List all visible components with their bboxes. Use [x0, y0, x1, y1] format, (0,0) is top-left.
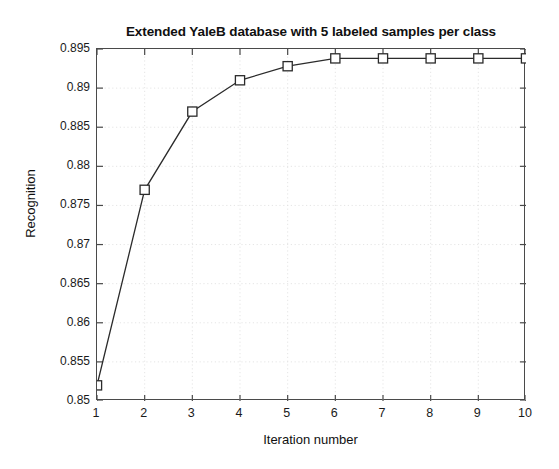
x-axis-label: Iteration number — [96, 432, 525, 447]
x-tick-label: 9 — [457, 406, 497, 420]
y-tick-label: 0.875 — [38, 197, 90, 211]
x-tick-label: 2 — [124, 406, 164, 420]
x-tick-label: 7 — [362, 406, 402, 420]
y-axis-tick-labels: 0.850.8550.860.8650.870.8750.880.8850.89… — [34, 48, 90, 400]
plot-canvas — [97, 49, 526, 401]
x-tick-label: 6 — [314, 406, 354, 420]
y-tick-label: 0.865 — [38, 276, 90, 290]
y-tick-label: 0.895 — [38, 41, 90, 55]
x-tick-label: 8 — [410, 406, 450, 420]
x-tick-label: 4 — [219, 406, 259, 420]
y-tick-label: 0.855 — [38, 354, 90, 368]
y-tick-label: 0.885 — [38, 119, 90, 133]
x-tick-label: 3 — [171, 406, 211, 420]
y-axis-label: Recognition — [23, 114, 38, 294]
x-tick-label: 10 — [505, 406, 545, 420]
y-tick-label: 0.85 — [38, 393, 90, 407]
chart-title: Extended YaleB database with 5 labeled s… — [96, 24, 526, 39]
chart-figure: Extended YaleB database with 5 labeled s… — [0, 0, 559, 469]
x-axis-tick-labels: 12345678910 — [96, 406, 525, 426]
y-tick-label: 0.89 — [38, 80, 90, 94]
y-tick-label: 0.88 — [38, 158, 90, 172]
y-tick-label: 0.87 — [38, 237, 90, 251]
plot-area — [96, 48, 525, 400]
x-tick-label: 5 — [267, 406, 307, 420]
y-tick-label: 0.86 — [38, 315, 90, 329]
x-tick-label: 1 — [76, 406, 116, 420]
